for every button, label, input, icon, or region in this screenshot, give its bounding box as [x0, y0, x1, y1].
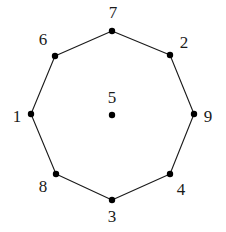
vertex-label-9: 9	[204, 108, 213, 125]
vertex-dot-6[interactable]	[52, 53, 58, 59]
vertex-dot-4[interactable]	[167, 171, 173, 177]
vertex-label-5: 5	[108, 89, 117, 106]
edge-9-4	[170, 114, 194, 174]
edge-1-6	[31, 56, 55, 114]
octagon-diagram	[0, 0, 226, 232]
edge-4-3	[112, 174, 170, 200]
vertex-label-1: 1	[13, 108, 22, 125]
vertex-label-7: 7	[109, 4, 118, 21]
edge-3-8	[56, 174, 112, 200]
vertex-dot-9[interactable]	[191, 111, 197, 117]
vertex-dot-2[interactable]	[167, 52, 173, 58]
edge-7-2	[112, 31, 170, 55]
vertex-group	[28, 28, 197, 203]
vertex-dot-5[interactable]	[109, 112, 115, 118]
vertex-label-6: 6	[39, 31, 48, 48]
edge-2-9	[170, 55, 194, 114]
vertex-label-2: 2	[180, 34, 189, 51]
vertex-dot-7[interactable]	[109, 28, 115, 34]
vertex-dot-8[interactable]	[53, 171, 59, 177]
edge-8-1	[31, 114, 56, 174]
vertex-label-8: 8	[39, 178, 48, 195]
vertex-label-3: 3	[108, 208, 117, 225]
vertex-dot-1[interactable]	[28, 111, 34, 117]
figure-canvas: 729438165	[0, 0, 226, 232]
vertex-label-4: 4	[177, 181, 186, 198]
vertex-dot-3[interactable]	[109, 197, 115, 203]
edge-6-7	[55, 31, 112, 56]
